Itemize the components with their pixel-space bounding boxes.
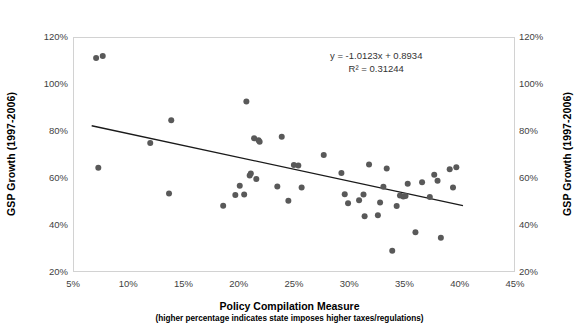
data-point <box>338 170 344 176</box>
data-point <box>453 164 459 170</box>
x-tick-label: 40% <box>440 278 480 289</box>
data-point <box>377 200 383 206</box>
data-point <box>295 163 301 169</box>
y-tick-label-left: 20% <box>32 266 68 277</box>
data-point <box>384 165 390 171</box>
y-tick-label-right: 120% <box>519 31 557 42</box>
x-tick-label: 35% <box>385 278 425 289</box>
data-point <box>394 203 400 209</box>
x-tick-label: 45% <box>495 278 535 289</box>
x-tick-label: 10% <box>108 278 148 289</box>
y-axis-title-left-text: GSP Growth (1997-2006) <box>5 92 17 216</box>
data-point <box>361 192 367 198</box>
data-point <box>342 191 348 197</box>
data-point <box>435 178 441 184</box>
data-point <box>366 161 372 167</box>
x-tick-label: 5% <box>53 278 93 289</box>
data-point <box>412 229 418 235</box>
data-point <box>93 55 99 61</box>
y-tick-label-left: 60% <box>32 172 68 183</box>
data-point <box>100 53 106 59</box>
data-point <box>253 176 259 182</box>
data-point <box>237 183 243 189</box>
data-point <box>168 117 174 123</box>
data-point <box>248 171 254 177</box>
data-point <box>243 98 249 104</box>
x-axis-title: Policy Compilation Measure (higher perce… <box>0 300 579 325</box>
data-point <box>220 203 226 209</box>
data-point <box>274 184 280 190</box>
data-point <box>95 165 101 171</box>
data-point <box>438 235 444 241</box>
x-tick-label: 30% <box>329 278 369 289</box>
y-tick-label-left: 120% <box>32 31 68 42</box>
data-point <box>356 197 362 203</box>
data-point <box>375 212 381 218</box>
y-tick-label-right: 20% <box>519 266 557 277</box>
x-tick-label: 20% <box>219 278 259 289</box>
data-point <box>431 172 437 178</box>
data-point <box>405 181 411 187</box>
y-tick-label-right: 80% <box>519 125 557 136</box>
data-point <box>419 179 425 185</box>
y-axis-title-right: GSP Growth (1997-2006) <box>558 36 576 272</box>
x-axis-title-sub: (higher percentage indicates state impos… <box>0 313 579 325</box>
data-point <box>166 191 172 197</box>
y-axis-title-right-text: GSP Growth (1997-2006) <box>561 92 573 216</box>
trendline-equation-annotation: y = -1.0123x + 0.8934 R² = 0.31244 <box>330 49 422 75</box>
data-point <box>279 134 285 140</box>
y-tick-label-left: 100% <box>32 78 68 89</box>
data-point <box>345 200 351 206</box>
y-axis-title-left: GSP Growth (1997-2006) <box>2 36 20 272</box>
data-point <box>285 198 291 204</box>
data-point <box>241 192 247 198</box>
y-tick-label-right: 100% <box>519 78 557 89</box>
y-tick-label-right: 40% <box>519 219 557 230</box>
data-point <box>450 184 456 190</box>
x-axis-title-main: Policy Compilation Measure <box>0 300 579 313</box>
data-point <box>403 193 409 199</box>
data-point <box>147 140 153 146</box>
data-point <box>447 166 453 172</box>
plot-area <box>73 37 515 272</box>
data-point <box>362 213 368 219</box>
y-tick-label-left: 40% <box>32 219 68 230</box>
data-point <box>257 139 263 145</box>
x-tick-label: 25% <box>274 278 314 289</box>
plot-svg <box>74 38 516 273</box>
scatter-chart: GSP Growth (1997-2006) GSP Growth (1997-… <box>0 0 579 333</box>
trendline-r2-text: R² = 0.31244 <box>330 62 422 75</box>
y-tick-label-left: 80% <box>32 125 68 136</box>
data-point <box>299 184 305 190</box>
data-point <box>427 194 433 200</box>
data-point <box>321 152 327 158</box>
trendline-equation-text: y = -1.0123x + 0.8934 <box>330 49 422 62</box>
x-tick-label: 15% <box>164 278 204 289</box>
data-point <box>389 248 395 254</box>
y-tick-label-right: 60% <box>519 172 557 183</box>
data-point <box>380 184 386 190</box>
data-point <box>232 192 238 198</box>
